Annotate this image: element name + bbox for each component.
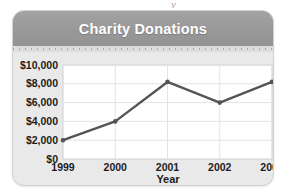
x-axis-tick-label: 1999	[51, 161, 75, 173]
chart-body: $0$2,000$4,000$6,000$8,000$10,000 199920…	[13, 52, 274, 186]
data-point-marker	[61, 138, 66, 143]
y-axis-tick-labels: $0$2,000$4,000$6,000$8,000$10,000	[20, 59, 58, 165]
y-axis-tick-label: $8,000	[26, 77, 58, 89]
data-point-marker	[217, 100, 222, 105]
y-axis-tick-label: $2,000	[26, 134, 58, 146]
y-axis-tick-label: $10,000	[20, 59, 58, 71]
x-axis-tick-label: 2000	[104, 161, 128, 173]
x-axis-tick-label: 2002	[208, 161, 232, 173]
data-point-marker	[113, 119, 118, 124]
x-axis-title: Year	[156, 173, 180, 185]
chart-title: Charity Donations	[79, 21, 207, 37]
y-axis-tick-label: $6,000	[26, 96, 58, 108]
figure-root: y Charity Donations $0$2,000$4,000$6,000…	[0, 0, 286, 195]
chart-header-band: Charity Donations	[13, 11, 273, 46]
line-chart-svg: $0$2,000$4,000$6,000$8,000$10,000 199920…	[13, 52, 274, 186]
y-axis-tick-label: $4,000	[26, 115, 58, 127]
x-axis-tick-label: 2001	[156, 161, 180, 173]
x-axis-tick-label: 2003	[260, 161, 274, 173]
cropped-text-artifact: y	[171, 0, 185, 8]
data-point-marker	[165, 80, 170, 85]
chart-card: Charity Donations $0$2,000$4,000$6,000$8…	[12, 10, 274, 186]
x-axis-tick-labels: 19992000200120022003	[51, 161, 274, 173]
